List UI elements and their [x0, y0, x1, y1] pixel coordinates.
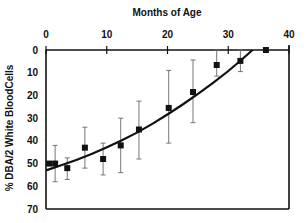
x-tick-label: 40	[283, 29, 295, 40]
chart-title: Months of Age	[132, 7, 202, 18]
data-point-square	[82, 145, 88, 151]
data-point-square	[118, 142, 124, 148]
x-tick-label: 0	[43, 29, 49, 40]
x-tick-label: 20	[162, 29, 174, 40]
error-bars	[53, 50, 243, 182]
y-tick-label: 70	[27, 204, 39, 215]
chart: Months of Age 010203040 010203040506070 …	[0, 0, 308, 223]
data-point-square	[100, 156, 106, 162]
y-tick-label: 60	[27, 181, 39, 192]
y-tick-label: 40	[27, 135, 39, 146]
x-tick-label: 30	[223, 29, 235, 40]
data-point-square	[166, 105, 172, 111]
data-point-square	[136, 127, 142, 133]
x-tick-label: 10	[101, 29, 113, 40]
data-point-square	[46, 161, 52, 167]
y-axis-label: % DBA/2 White BloodCells	[4, 64, 15, 191]
y-tick-label: 50	[27, 158, 39, 169]
fitted-curve	[46, 50, 253, 170]
y-tick-label: 0	[32, 45, 38, 56]
data-point-square	[52, 161, 58, 167]
data-point-square	[237, 58, 243, 64]
y-tick-label: 30	[27, 113, 39, 124]
data-point-square	[263, 47, 269, 53]
data-point-square	[64, 165, 70, 171]
y-tick-label: 20	[27, 90, 39, 101]
data-point-square	[214, 62, 220, 68]
data-point-square	[190, 89, 196, 95]
y-axis-ticks: 010203040506070	[27, 45, 39, 215]
y-tick-label: 10	[27, 67, 39, 78]
